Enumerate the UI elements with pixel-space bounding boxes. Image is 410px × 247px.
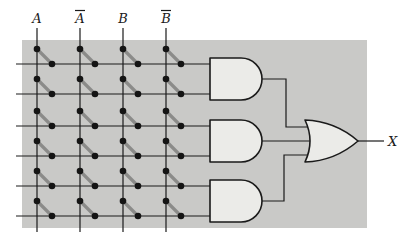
fuse-dot-row [178, 153, 185, 160]
fuse-dot-row [178, 183, 185, 190]
fuse-dot-row [49, 91, 56, 98]
pla-fuse-diagram: AABBX [0, 0, 410, 247]
fuse-dot-row [49, 123, 56, 130]
fuse-dot-row [178, 61, 185, 68]
fuse-dot-column [163, 198, 170, 205]
fuse-dot-column [163, 168, 170, 175]
fuse-dot-row [135, 153, 142, 160]
fuse-dot-column [34, 198, 41, 205]
fuse-dot-row [92, 61, 99, 68]
fuse-dot-row [92, 213, 99, 220]
fuse-dot-column [120, 138, 127, 145]
fuse-dot-column [34, 138, 41, 145]
fuse-dot-column [77, 46, 84, 53]
and-gate-1 [210, 58, 262, 100]
fuse-dot-row [49, 61, 56, 68]
fuse-dot-row [135, 91, 142, 98]
input-label-2: A [74, 11, 84, 26]
fuse-dot-row [92, 123, 99, 130]
fuse-dot-column [34, 168, 41, 175]
fuse-dot-column [120, 76, 127, 83]
fuse-dot-column [77, 138, 84, 145]
fuse-dot-row [92, 183, 99, 190]
fuse-dot-column [77, 76, 84, 83]
fuse-dot-column [120, 168, 127, 175]
fuse-dot-row [135, 123, 142, 130]
fuse-dot-row [92, 91, 99, 98]
fuse-dot-row [49, 153, 56, 160]
input-label-1: A [31, 11, 41, 26]
fuse-dot-column [77, 168, 84, 175]
logic-diagram-svg: AABBX [0, 0, 410, 247]
fuse-dot-column [77, 198, 84, 205]
fuse-dot-row [135, 183, 142, 190]
fuse-dot-column [77, 108, 84, 115]
fuse-dot-row [49, 183, 56, 190]
fuse-dot-row [178, 123, 185, 130]
fuse-dot-row [178, 91, 185, 98]
fuse-dot-row [178, 213, 185, 220]
fuse-dot-column [120, 46, 127, 53]
fuse-dot-column [34, 108, 41, 115]
fuse-dot-column [120, 108, 127, 115]
fuse-dot-row [135, 213, 142, 220]
fuse-dot-column [163, 46, 170, 53]
fuse-dot-column [163, 76, 170, 83]
and-gate-3 [210, 180, 262, 222]
fuse-dot-row [135, 61, 142, 68]
input-label-3: B [117, 11, 128, 26]
fuse-dot-row [92, 153, 99, 160]
fuse-dot-column [34, 76, 41, 83]
input-label-4: B [160, 11, 171, 26]
fuse-dot-column [34, 46, 41, 53]
fuse-dot-row [49, 213, 56, 220]
fuse-dot-column [163, 138, 170, 145]
output-label: X [387, 134, 398, 149]
fuse-dot-column [163, 108, 170, 115]
fuse-dot-column [120, 198, 127, 205]
and-gate-2 [210, 120, 262, 162]
